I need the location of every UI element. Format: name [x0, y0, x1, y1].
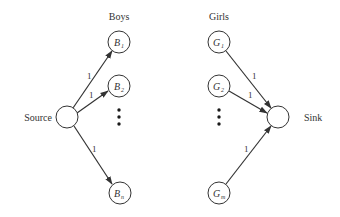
boy-node-2-subscript: 2: [121, 87, 124, 93]
capacity-label-bn: 1: [92, 144, 97, 154]
girl-node-1: G 1: [208, 31, 230, 53]
girl-node-2: G 2: [208, 75, 230, 97]
boy-node-2-letter: B: [114, 81, 120, 92]
girl-node-2-letter: G: [213, 81, 220, 92]
capacity-label-g1: 1: [252, 71, 257, 81]
girl-node-m-subscript: m: [221, 194, 226, 200]
capacity-label-g2: 1: [248, 90, 253, 100]
source-node: [56, 106, 78, 128]
boy-node-1: B 1: [108, 31, 130, 53]
girl-node-1-subscript: 1: [221, 43, 224, 49]
boy-node-n-letter: B: [114, 188, 120, 199]
source-label: Source: [24, 112, 52, 123]
edge-source-bn: [74, 126, 112, 184]
boys-header: Boys: [109, 11, 130, 22]
edge-gm-sink: [226, 126, 271, 184]
boy-node-1-letter: B: [114, 37, 120, 48]
boy-node-n-subscript: n: [121, 194, 124, 200]
capacity-label-b2: 1: [89, 90, 94, 100]
boy-node-n: B n: [109, 182, 131, 204]
capacity-label-b1: 1: [87, 71, 92, 81]
girls-ellipsis-icon: [217, 108, 220, 125]
girls-header: Girls: [209, 11, 229, 22]
sink-label: Sink: [304, 112, 322, 123]
sink-node: [267, 106, 289, 128]
girl-node-2-subscript: 2: [221, 87, 224, 93]
flow-network-diagram: Boys Girls 1 1 1 1 1 1 Source Sink B 1 B…: [0, 0, 340, 217]
girl-node-m: G m: [208, 182, 230, 204]
girl-node-m-letter: G: [213, 188, 220, 199]
girl-node-1-letter: G: [213, 37, 220, 48]
boys-ellipsis-icon: [117, 108, 120, 125]
boy-node-2: B 2: [108, 75, 130, 97]
capacity-label-gm: 1: [244, 144, 249, 154]
boy-node-1-subscript: 1: [121, 43, 124, 49]
